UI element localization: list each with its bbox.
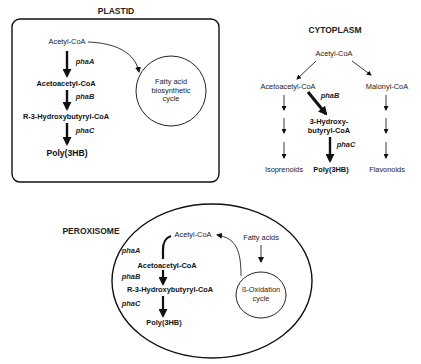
peroxisome-title: PEROXISOME — [62, 227, 119, 236]
peroxisome-compartment — [112, 204, 312, 358]
perox-acetoacetyl-coa: Acetoacetyl-CoA — [137, 262, 196, 269]
plastid-enzyme-phaC: phaC — [76, 127, 94, 134]
cyto-malonyl-coa: Malonyl-CoA — [366, 83, 408, 90]
perox-acetyl-coa: Acetyl-CoA — [175, 231, 212, 238]
cyto-flavonoids: Flavonoids — [369, 166, 405, 173]
perox-poly3hb: Poly(3HB) — [146, 319, 181, 326]
plastid-poly3hb: Poly(3HB) — [46, 149, 87, 158]
beta-oxidation-cycle-label: ß-Oxidation cycle — [242, 286, 280, 303]
perox-fatty-acids: Fatty acids — [243, 234, 279, 241]
plastid-enzyme-phaB: phaB — [76, 93, 94, 100]
plastid-enzyme-phaA: phaA — [76, 58, 94, 65]
perox-hydroxybutyryl-coa: R-3-Hydroxybutyryl-CoA — [127, 286, 213, 293]
cyto-branch-left-arrow — [297, 61, 316, 79]
acetyl-to-cycle-arrow — [88, 42, 139, 72]
cyto-acetyl-coa: Acetyl-CoA — [316, 50, 353, 57]
perox-enzyme-phaA: phaA — [122, 247, 140, 254]
cyto-hydroxybutyryl-coa: 3-Hydroxy- butyryl-CoA — [308, 118, 350, 135]
cytoplasm-title: CYTOPLASM — [308, 26, 361, 35]
plastid-title: PLASTID — [98, 7, 134, 16]
plastid-hydroxybutyryl-coa: R-3-Hydroxybutyryl-CoA — [23, 113, 109, 120]
fatty-acid-cycle-label: Fatty acid biosynthetic cycle — [151, 78, 190, 104]
cyto-acetoacetyl-coa: Acetoacetyl-CoA — [260, 83, 315, 90]
perox-enzyme-phaB: phaB — [122, 273, 140, 280]
cyto-enzyme-phaC: phaC — [337, 141, 355, 148]
cyto-enzyme-phaB: phaB — [321, 92, 339, 99]
plastid-acetoacetyl-coa: Acetoacetyl-CoA — [36, 80, 95, 87]
perox-enzyme-phaC: phaC — [122, 300, 140, 307]
cyto-isoprenoids: Isoprenoids — [265, 166, 303, 173]
perox-phaA-arrow — [163, 236, 171, 259]
diagram-graphics — [0, 0, 421, 364]
plastid-acetyl-coa: Acetyl-CoA — [49, 38, 86, 45]
cyto-branch-right-arrow — [352, 61, 371, 75]
cyto-poly3hb: Poly(3HB) — [313, 166, 348, 173]
beta-to-acetyl-arrow — [217, 235, 241, 276]
